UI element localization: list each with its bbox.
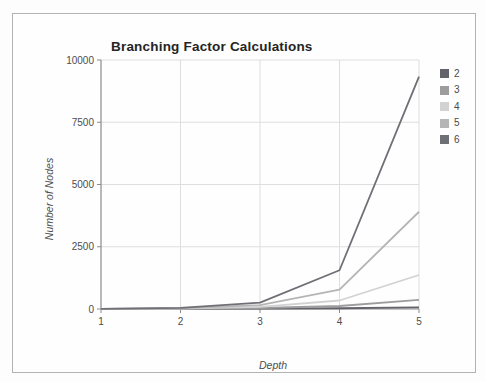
x-tick-label: 4 <box>337 316 343 327</box>
y-tick-label: 2500 <box>72 241 95 252</box>
scanned-page: Branching Factor Calculations Number of … <box>0 0 485 382</box>
x-tick-label: 1 <box>98 316 104 327</box>
y-tick-label: 0 <box>88 304 94 315</box>
x-tick-label: 2 <box>178 316 184 327</box>
x-tick-label: 3 <box>257 316 263 327</box>
y-tick-label: 7500 <box>72 117 95 128</box>
line-chart: 02500500075001000012345 <box>0 0 485 382</box>
y-tick-label: 5000 <box>72 179 95 190</box>
x-tick-label: 5 <box>416 316 422 327</box>
y-tick-label: 10000 <box>66 55 94 66</box>
